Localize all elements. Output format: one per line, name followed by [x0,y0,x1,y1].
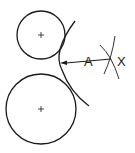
construction-diagram: A X [0,0,135,153]
center-label: X [117,54,126,69]
radius-label: A [84,54,93,69]
arrow-head-icon [60,61,67,66]
locus-arc-2 [104,36,115,74]
